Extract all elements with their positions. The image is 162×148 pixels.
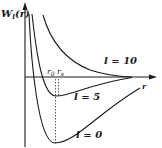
curve-label-l-0: l = 0: [76, 129, 102, 140]
curve-label-l-10: l = 10: [104, 55, 137, 66]
y-axis-label: Wl(r): [1, 8, 30, 21]
r0-label: r0: [47, 67, 55, 77]
x-axis-arrow-icon: [149, 75, 157, 80]
curve-label-l-5: l = 5: [74, 91, 100, 102]
x-axis-label: r: [142, 81, 147, 91]
diagram-canvas: Wl(r) r r0 rs l = 10 l = 5 l = 0: [0, 0, 162, 148]
rs-label: rs: [57, 67, 64, 77]
effective-potential-diagram: Wl(r) r r0 rs l = 10 l = 5 l = 0: [0, 0, 162, 148]
